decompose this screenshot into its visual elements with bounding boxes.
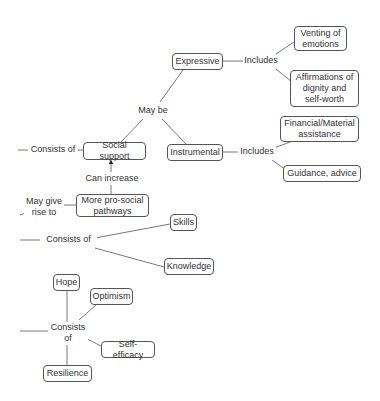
node-skills[interactable]: Skills — [170, 214, 197, 231]
link-label-includes-instrumental: Includes — [238, 146, 276, 157]
node-knowledge[interactable]: Knowledge — [164, 258, 214, 275]
link-label-may-give-rise-to: May give rise to — [24, 196, 64, 218]
link-label-consists-of-skills: Consists of — [40, 234, 97, 245]
node-instrumental[interactable]: Instrumental — [167, 144, 223, 161]
node-social-support[interactable]: Social support — [83, 142, 146, 160]
node-self-efficacy[interactable]: Self-efficacy — [101, 341, 155, 358]
node-resilience[interactable]: Resilience — [43, 365, 92, 382]
node-affirmations[interactable]: Affirmations of dignity and self-worth — [290, 70, 359, 107]
node-guidance-advice[interactable]: Guidance, advice — [283, 165, 361, 182]
node-venting-of-emotions[interactable]: Venting of emotions — [294, 26, 347, 51]
link-label-may-be: May be — [135, 105, 171, 116]
node-pro-social-pathways[interactable]: More pro-social pathways — [76, 194, 149, 217]
link-label-consists-of-social: Consists of — [28, 144, 78, 155]
node-expressive[interactable]: Expressive — [172, 53, 223, 70]
link-label-includes-expressive: Includes — [243, 55, 279, 66]
node-financial-assistance[interactable]: Financial/Material assistance — [280, 116, 359, 142]
node-hope[interactable]: Hope — [53, 274, 80, 291]
link-label-consists-of-hope: Consists of — [48, 322, 88, 344]
node-optimism[interactable]: Optimism — [90, 288, 133, 305]
link-label-can-increase: Can increase — [83, 173, 141, 184]
